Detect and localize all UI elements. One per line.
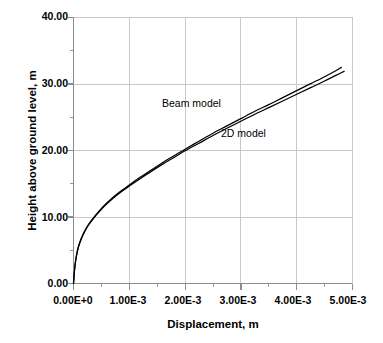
tick-marks: [68, 18, 353, 290]
figure-chart: Height above ground level, m 40.00 30.00…: [0, 0, 383, 343]
caption-strip: [0, 335, 383, 343]
plot-area: [0, 0, 383, 343]
grid-lines: [74, 18, 353, 284]
annotation-beam-model: Beam model: [162, 97, 221, 109]
annotation-2d-model: 2D model: [221, 127, 266, 139]
